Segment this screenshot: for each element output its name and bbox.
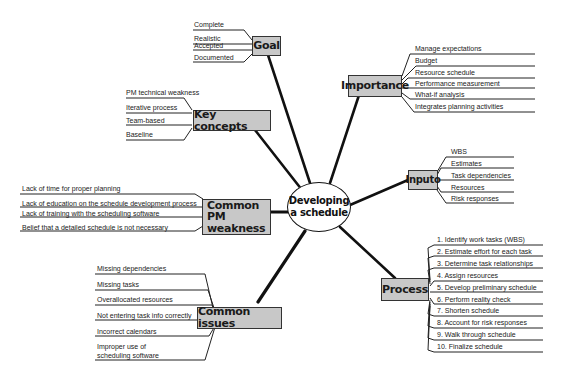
branch-common-pm-weakness-label-line1: Common PM — [207, 200, 270, 223]
process-step: 8. Account for risk responses — [437, 319, 527, 326]
process-step: 2. Estimate effort for each task — [437, 248, 532, 255]
central-topic-line1: Developing — [289, 195, 350, 208]
branch-process[interactable]: Process — [381, 278, 429, 301]
process-step: 7. Shorten schedule — [437, 307, 499, 314]
branch-inputs-label: Inputo — [406, 175, 441, 186]
branch-goal[interactable]: Goal — [252, 36, 281, 56]
branch-inputs[interactable]: Inputo — [408, 170, 438, 190]
goal-item: Realistic — [194, 35, 220, 42]
branch-common-issues[interactable]: Common issues — [197, 307, 282, 329]
common-issues-item: Incorrect calendars — [97, 328, 157, 335]
key-concepts-item: PM technical weakness — [126, 89, 199, 96]
key-concepts-item: Team-based — [126, 117, 165, 124]
process-step: 10. Finalize schedule — [437, 343, 503, 350]
common-pm-weakness-item: Belief that a detailed schedule is not n… — [22, 224, 168, 231]
branch-goal-label: Goal — [253, 40, 280, 52]
branch-importance-label: Importance — [341, 80, 409, 92]
inputs-item: Risk responses — [451, 195, 499, 202]
common-pm-weakness-item: Lack of education on the schedule develo… — [22, 200, 197, 207]
branch-common-issues-label: Common issues — [198, 306, 281, 329]
common-issues-item: Overallocated resources — [97, 296, 173, 303]
goal-item: Accepted — [194, 42, 223, 49]
branch-common-pm-weakness-label-line2: weakness — [207, 223, 265, 235]
goal-item: Complete — [194, 21, 224, 28]
branch-key-concepts-label: Key concepts — [194, 109, 270, 132]
common-pm-weakness-item: Lack of training with the scheduling sof… — [22, 210, 159, 217]
inputs-item: WBS — [451, 148, 467, 155]
process-step: 5. Develop preliminary schedule — [437, 284, 537, 291]
common-issues-item: Missing tasks — [97, 281, 139, 288]
common-pm-weakness-item: Lack of time for proper planning — [22, 185, 120, 192]
branch-process-label: Process — [382, 284, 428, 296]
importance-item: What-if analysis — [415, 91, 464, 98]
branch-key-concepts[interactable]: Key concepts — [193, 110, 271, 131]
branch-common-pm-weakness[interactable]: Common PM weakness — [202, 199, 271, 235]
importance-item: Budget — [415, 57, 437, 64]
common-issues-item: scheduling software — [97, 352, 159, 359]
inputs-item: Resources — [451, 184, 484, 191]
key-concepts-item: Iterative process — [126, 104, 177, 111]
goal-item: Documented — [194, 54, 234, 61]
common-issues-item: Missing dependencies — [97, 265, 166, 272]
inputs-item: Estimates — [451, 160, 482, 167]
process-step: 4. Assign resources — [437, 272, 498, 279]
process-step: 6. Perform reality check — [437, 296, 511, 303]
importance-item: Performance measurement — [415, 80, 500, 87]
process-step: 1. Identify work tasks (WBS) — [437, 236, 525, 243]
inputs-item: Task dependencies — [451, 172, 511, 179]
process-step: 9. Walk through schedule — [437, 331, 516, 338]
common-issues-item: Not entering task info correctly — [97, 312, 192, 319]
branch-importance[interactable]: Importance — [348, 75, 402, 97]
central-topic-node[interactable]: Developing a schedule — [287, 182, 351, 232]
process-step: 3. Determine task relationships — [437, 260, 533, 267]
importance-item: Integrates planning activities — [415, 103, 503, 110]
key-concepts-item: Baseline — [126, 131, 153, 138]
importance-item: Resource schedule — [415, 69, 475, 76]
common-issues-item: Improper use of — [97, 343, 146, 350]
importance-item: Manage expectations — [415, 45, 482, 52]
central-topic-line2: a schedule — [290, 207, 348, 220]
